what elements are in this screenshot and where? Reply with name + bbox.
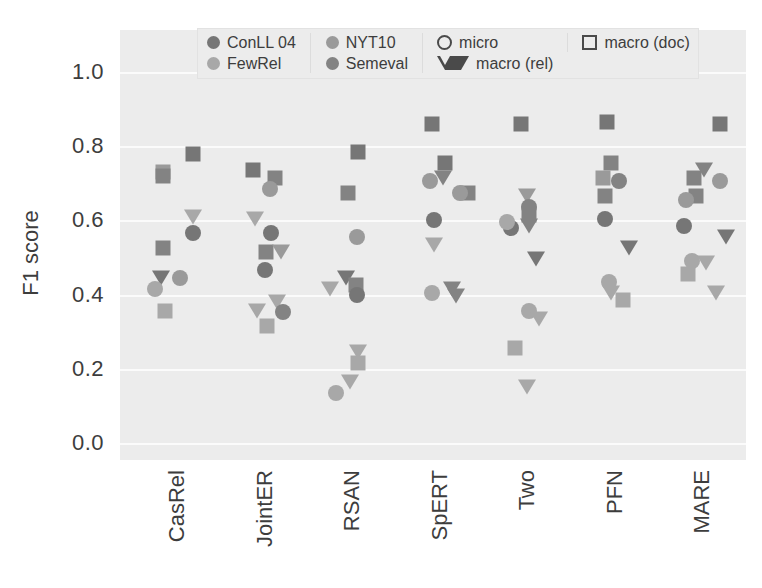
legend-column: macro (doc) <box>567 33 689 52</box>
legend-column: NYT10Semeval <box>310 33 408 73</box>
x-tick-label-rsan: RSAN <box>339 470 365 531</box>
x-tick-label-two: Two <box>514 470 540 510</box>
legend-label: ConLL 04 <box>227 35 296 51</box>
legend-column: ConLL 04FewRel <box>206 33 296 73</box>
filled-circle-icon <box>207 36 220 49</box>
x-tick-label-casrel: CasRel <box>164 470 190 542</box>
legend-label: Semeval <box>346 56 408 72</box>
legend-label: FewRel <box>227 56 281 72</box>
legend-label: NYT10 <box>346 35 396 51</box>
x-tick-label-mare: MARE <box>689 470 715 534</box>
figure-root: F1 score 1.00.80.60.40.20.0 CasRelJointE… <box>0 0 762 588</box>
x-tick-label-spert: SpERT <box>427 470 453 541</box>
x-tick-label-pfn: PFN <box>602 470 628 514</box>
legend-item[interactable]: micro <box>437 33 553 52</box>
filled-circle-icon <box>326 36 339 49</box>
legend-item[interactable]: FewRel <box>206 54 296 73</box>
legend-item[interactable]: macro (rel) <box>437 54 553 73</box>
legend-label: macro (doc) <box>604 35 689 51</box>
open-square-icon <box>582 35 597 50</box>
legend-item[interactable]: Semeval <box>325 54 408 73</box>
x-tick-label-jointer: JointER <box>252 470 278 547</box>
legend-item[interactable]: ConLL 04 <box>206 33 296 52</box>
legend-item[interactable]: NYT10 <box>325 33 408 52</box>
x-axis: CasRelJointERRSANSpERTTwoPFNMARE <box>0 0 762 588</box>
legend-label: micro <box>459 35 498 51</box>
open-circle-icon <box>437 35 452 50</box>
filled-circle-icon <box>326 57 339 70</box>
legend-label: macro (rel) <box>476 56 553 72</box>
open-triangle-down-icon <box>437 56 469 70</box>
legend-column: micromacro (rel) <box>422 33 553 73</box>
filled-circle-icon <box>207 57 220 70</box>
legend: ConLL 04FewRelNYT10Semevalmicromacro (re… <box>197 28 699 79</box>
legend-item[interactable]: macro (doc) <box>582 33 689 52</box>
